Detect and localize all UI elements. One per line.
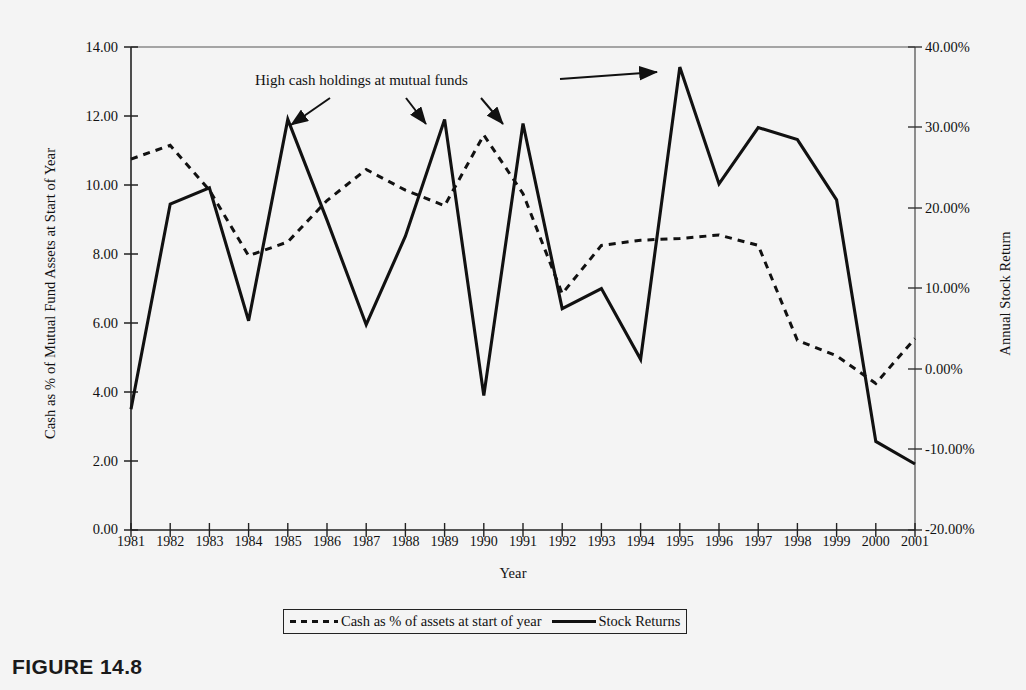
x-tick-label-1981: 1981 [110, 534, 152, 550]
x-tick-label-1994: 1994 [620, 534, 662, 550]
legend-solid-line-icon [552, 620, 596, 622]
series-cash-line [131, 135, 915, 383]
legend-item-cash-label: Cash as % of assets at start of year [341, 613, 542, 630]
legend-item-returns[interactable]: Stock Returns [552, 613, 681, 630]
legend-item-cash[interactable]: Cash as % of assets at start of year [290, 613, 542, 630]
x-tick-label-1998: 1998 [776, 534, 818, 550]
x-tick-label-1997: 1997 [737, 534, 779, 550]
annotation-arrow-1991 [481, 98, 503, 124]
legend-dashed-line-icon [290, 620, 338, 622]
x-tick-label-1986: 1986 [306, 534, 348, 550]
x-tick-label-1996: 1996 [698, 534, 740, 550]
chart-legend: Cash as % of assets at start of year Sto… [283, 609, 687, 634]
x-tick-label-1985: 1985 [267, 534, 309, 550]
annotation-arrows [291, 72, 657, 125]
x-tick-label-1989: 1989 [424, 534, 466, 550]
x-tick-label-1983: 1983 [188, 534, 230, 550]
figure-caption: FIGURE 14.8 [12, 655, 142, 679]
x-tick-label-1984: 1984 [228, 534, 270, 550]
x-tick-label-1991: 1991 [502, 534, 544, 550]
x-tick-label-1982: 1982 [149, 534, 191, 550]
x-tick-label-1993: 1993 [580, 534, 622, 550]
legend-item-returns-label: Stock Returns [599, 613, 681, 630]
x-tick-label-1995: 1995 [659, 534, 701, 550]
x-tick-label-2001: 2001 [894, 534, 936, 550]
series-stock-returns-line [131, 67, 915, 464]
x-tick-label-2000: 2000 [855, 534, 897, 550]
annotation-arrow-1995 [560, 72, 657, 79]
x-tick-label-1990: 1990 [463, 534, 505, 550]
annotation-arrow-1989 [406, 98, 426, 124]
x-tick-label-1999: 1999 [816, 534, 858, 550]
x-tick-label-1987: 1987 [345, 534, 387, 550]
x-tick-label-1988: 1988 [384, 534, 426, 550]
annotation-arrow-1985 [291, 98, 330, 125]
figure-root: Cash as % of Mutual Fund Assets at Start… [0, 0, 1026, 690]
axis-frame [131, 47, 915, 530]
x-tick-label-1992: 1992 [541, 534, 583, 550]
chart-plot-area [0, 0, 1026, 690]
